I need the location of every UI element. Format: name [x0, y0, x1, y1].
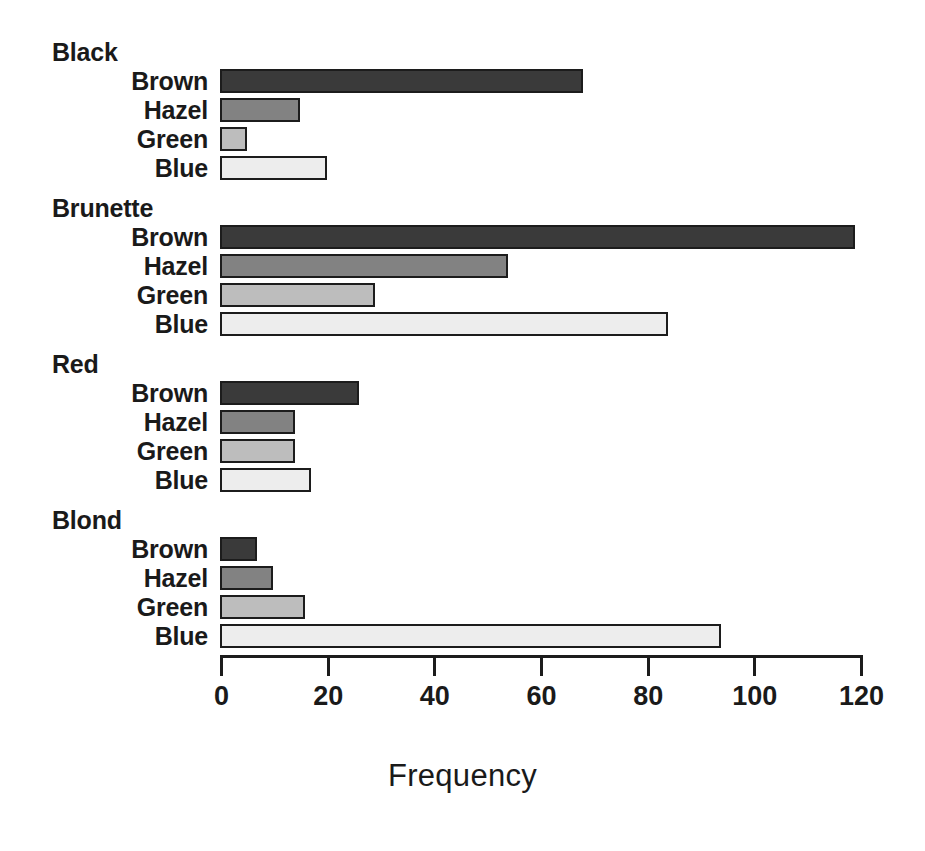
- bar-row-label-green: Green: [0, 439, 208, 464]
- bar-rows: BrownHazelGreenBlue: [0, 378, 925, 494]
- bar-row: Brown: [0, 378, 925, 407]
- bar-row-label-hazel: Hazel: [0, 254, 208, 279]
- bar-rows: BrownHazelGreenBlue: [0, 534, 925, 650]
- bar-brunette-green: [220, 283, 375, 307]
- bar-row-label-blue: Blue: [0, 312, 208, 337]
- x-axis-tick: [433, 655, 436, 676]
- bar-row-label-brown: Brown: [0, 225, 208, 250]
- group-label-blond: Blond: [52, 508, 122, 533]
- x-axis-tick-label: 100: [732, 683, 777, 710]
- bar-row-label-green: Green: [0, 283, 208, 308]
- x-axis-tick: [327, 655, 330, 676]
- bar-black-hazel: [220, 98, 300, 122]
- bar-row: Blue: [0, 621, 925, 650]
- bar-row: Green: [0, 280, 925, 309]
- bar-row-label-blue: Blue: [0, 468, 208, 493]
- bar-red-brown: [220, 381, 359, 405]
- bar-chart: BlackBrownHazelGreenBlueBrunetteBrownHaz…: [0, 0, 925, 851]
- bar-row: Hazel: [0, 251, 925, 280]
- x-axis-tick-label: 40: [420, 683, 450, 710]
- bar-rows: BrownHazelGreenBlue: [0, 66, 925, 182]
- x-axis-tick-label: 0: [214, 683, 229, 710]
- x-axis-tick-label: 20: [313, 683, 343, 710]
- bar-row-label-hazel: Hazel: [0, 98, 208, 123]
- bar-red-green: [220, 439, 295, 463]
- bar-blond-hazel: [220, 566, 273, 590]
- bar-blond-brown: [220, 537, 257, 561]
- bar-row: Brown: [0, 534, 925, 563]
- x-axis: 020406080100120: [220, 655, 860, 656]
- bar-row-label-brown: Brown: [0, 69, 208, 94]
- x-axis-tick-label: 60: [526, 683, 556, 710]
- bar-row-label-blue: Blue: [0, 624, 208, 649]
- bar-row-label-green: Green: [0, 595, 208, 620]
- bar-group-brunette: BrunetteBrownHazelGreenBlue: [0, 196, 925, 338]
- bar-row: Blue: [0, 309, 925, 338]
- bar-row: Blue: [0, 465, 925, 494]
- x-axis-tick: [220, 655, 223, 676]
- bar-row: Blue: [0, 153, 925, 182]
- bar-red-blue: [220, 468, 311, 492]
- bar-black-brown: [220, 69, 583, 93]
- bar-row: Brown: [0, 66, 925, 95]
- x-axis-tick: [540, 655, 543, 676]
- x-axis-tick-label: 120: [839, 683, 884, 710]
- bar-blond-green: [220, 595, 305, 619]
- bar-row: Brown: [0, 222, 925, 251]
- bar-row-label-blue: Blue: [0, 156, 208, 181]
- bar-group-blond: BlondBrownHazelGreenBlue: [0, 508, 925, 650]
- x-axis-label: Frequency: [0, 760, 925, 791]
- bar-row: Hazel: [0, 407, 925, 436]
- x-axis-tick-label: 80: [633, 683, 663, 710]
- bar-group-red: RedBrownHazelGreenBlue: [0, 352, 925, 494]
- bar-red-hazel: [220, 410, 295, 434]
- x-axis-tick: [647, 655, 650, 676]
- bar-row-label-green: Green: [0, 127, 208, 152]
- bar-rows: BrownHazelGreenBlue: [0, 222, 925, 338]
- bar-row: Hazel: [0, 563, 925, 592]
- bar-black-green: [220, 127, 247, 151]
- group-label-black: Black: [52, 40, 118, 65]
- bar-row-label-brown: Brown: [0, 381, 208, 406]
- bar-brunette-brown: [220, 225, 855, 249]
- bar-black-blue: [220, 156, 327, 180]
- bar-blond-blue: [220, 624, 721, 648]
- x-axis-tick: [860, 655, 863, 676]
- group-label-red: Red: [52, 352, 99, 377]
- bar-brunette-hazel: [220, 254, 508, 278]
- bar-row-label-hazel: Hazel: [0, 410, 208, 435]
- group-label-brunette: Brunette: [52, 196, 153, 221]
- x-axis-tick: [753, 655, 756, 676]
- bar-row-label-hazel: Hazel: [0, 566, 208, 591]
- bar-row: Hazel: [0, 95, 925, 124]
- bar-row: Green: [0, 436, 925, 465]
- bar-row-label-brown: Brown: [0, 537, 208, 562]
- bar-row: Green: [0, 592, 925, 621]
- bar-brunette-blue: [220, 312, 668, 336]
- bar-group-black: BlackBrownHazelGreenBlue: [0, 40, 925, 182]
- bar-row: Green: [0, 124, 925, 153]
